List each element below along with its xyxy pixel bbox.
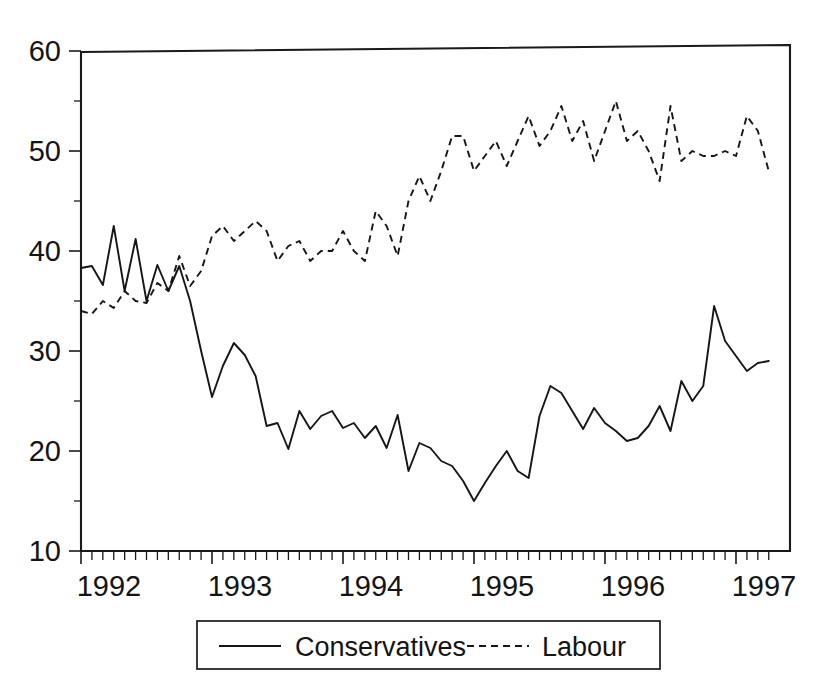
legend-label-labour: Labour [542, 632, 626, 662]
y-tick-label: 10 [29, 535, 61, 567]
tick-labels: 102030405060199219931994199519961997 [29, 35, 797, 602]
y-tick-label: 50 [29, 135, 61, 167]
y-tick-label: 20 [29, 435, 61, 467]
x-tick-label: 1996 [601, 570, 666, 602]
line-chart-plot: 102030405060199219931994199519961997 Con… [0, 0, 817, 699]
x-tick-label: 1992 [77, 570, 142, 602]
chart-figure: 102030405060199219931994199519961997 Con… [0, 0, 817, 699]
data-series [81, 101, 769, 501]
axes [69, 45, 790, 564]
x-tick-label: 1993 [208, 570, 273, 602]
x-tick-label: 1994 [339, 570, 404, 602]
x-tick-label: 1997 [732, 570, 797, 602]
legend-label-conservatives: Conservatives [295, 632, 466, 662]
y-tick-label: 40 [29, 235, 61, 267]
y-tick-label: 30 [29, 335, 61, 367]
y-tick-label: 60 [29, 35, 61, 67]
plot-frame [81, 45, 790, 551]
chart-legend: ConservativesLabour [197, 621, 660, 669]
x-tick-label: 1995 [470, 570, 535, 602]
